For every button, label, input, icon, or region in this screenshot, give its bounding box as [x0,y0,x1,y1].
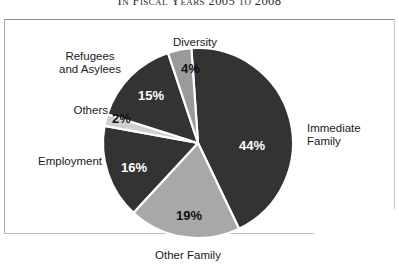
pie-value-other-family: 19% [176,208,202,223]
pie-label-others: Others [44,104,108,117]
pie-value-employment: 16% [121,160,147,175]
pie-chart-figure: In Fiscal Years 2005 to 2008 Diversity R… [0,0,399,277]
pie-label-other-family: Other Family [138,249,238,262]
pie-value-others: 2% [112,111,131,126]
pie-value-immediate-family: 44% [239,138,265,153]
pie-value-diversity: 4% [181,61,200,76]
pie-label-diversity: Diversity [152,36,238,49]
pie-value-refugees-and-asylees: 15% [138,88,164,103]
pie-label-employment: Employment [22,155,102,168]
pie-label-refugees-and-asylees: Refugees and Asylees [44,50,136,76]
pie-label-immediate-family: Immediate Family [307,122,393,148]
